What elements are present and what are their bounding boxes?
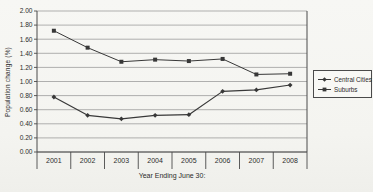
diamond-marker-icon xyxy=(317,75,332,84)
svg-text:1.80: 1.80 xyxy=(20,21,33,28)
line-chart: 2.001.801.601.401.201.000.800.600.400.20… xyxy=(0,0,373,192)
square-marker-icon xyxy=(317,85,332,94)
svg-text:0.60: 0.60 xyxy=(20,106,33,113)
svg-text:0.20: 0.20 xyxy=(20,134,33,141)
svg-text:1.20: 1.20 xyxy=(20,64,33,71)
svg-text:2001: 2001 xyxy=(46,157,62,164)
svg-text:0.00: 0.00 xyxy=(20,148,33,155)
svg-text:2002: 2002 xyxy=(80,157,96,164)
legend-label: Central Cities xyxy=(334,76,372,83)
legend-box: Central Cities Suburbs xyxy=(313,70,372,98)
legend-item-suburbs: Suburbs xyxy=(317,85,369,95)
y-axis-title: Population change (%) xyxy=(4,37,14,127)
svg-text:1.40: 1.40 xyxy=(20,50,33,57)
legend-label: Suburbs xyxy=(334,86,357,93)
x-axis-title: Year Ending June 30: xyxy=(87,172,257,179)
legend-item-central-cities: Central Cities xyxy=(317,74,369,84)
svg-text:1.00: 1.00 xyxy=(20,78,33,85)
svg-text:2.00: 2.00 xyxy=(20,7,33,14)
svg-text:1.60: 1.60 xyxy=(20,36,33,43)
svg-text:2004: 2004 xyxy=(147,157,163,164)
svg-text:2007: 2007 xyxy=(249,157,265,164)
svg-text:2005: 2005 xyxy=(181,157,197,164)
svg-text:2003: 2003 xyxy=(114,157,130,164)
svg-text:0.40: 0.40 xyxy=(20,120,33,127)
svg-text:0.80: 0.80 xyxy=(20,92,33,99)
svg-text:2006: 2006 xyxy=(215,157,231,164)
svg-text:2008: 2008 xyxy=(282,157,298,164)
